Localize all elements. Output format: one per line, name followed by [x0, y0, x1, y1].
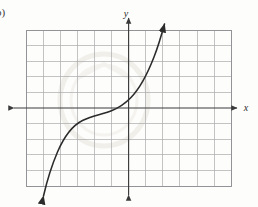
- watermark: [60, 54, 148, 146]
- figure-page: b): [0, 0, 258, 207]
- x-axis-label: x: [243, 102, 249, 113]
- y-axis-label: y: [123, 8, 129, 19]
- coordinate-graph: x y: [0, 0, 258, 207]
